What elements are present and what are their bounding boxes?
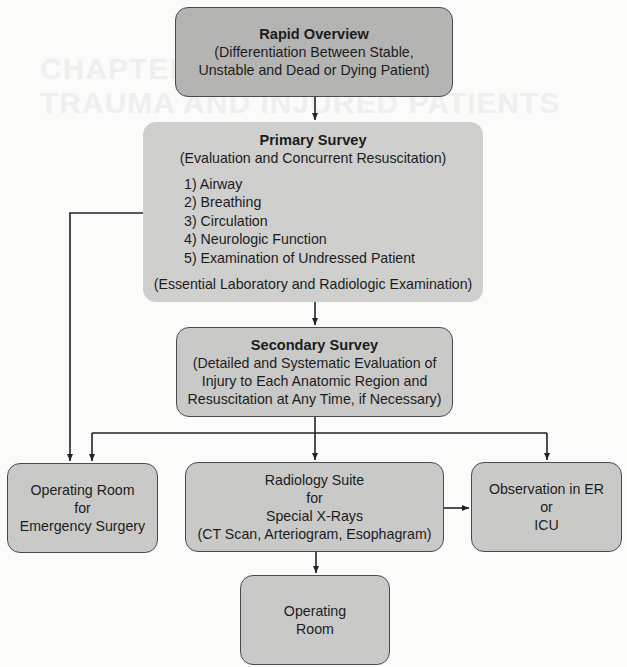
primary-survey-item: 4) Neurologic Function xyxy=(184,230,415,249)
primary-survey-item: 5) Examination of Undressed Patient xyxy=(184,249,415,268)
node-secondary-survey: Secondary Survey (Detailed and Systemati… xyxy=(176,327,453,417)
primary-survey-footer: (Essential Laboratory and Radiologic Exa… xyxy=(154,275,473,293)
radiology-line-4: (CT Scan, Arteriogram, Esophagram) xyxy=(198,525,432,543)
primary-survey-item: 1) Airway xyxy=(184,175,415,194)
rapid-overview-title: Rapid Overview xyxy=(259,25,369,43)
secondary-survey-line-1: (Detailed and Systematic Evaluation of xyxy=(193,354,437,372)
node-primary-survey: Primary Survey (Evaluation and Concurren… xyxy=(143,122,483,302)
primary-survey-title: Primary Survey xyxy=(259,131,366,149)
arrow-primary-to-or-emergency xyxy=(70,213,143,461)
node-operating-room-emergency: Operating Room for Emergency Surgery xyxy=(7,463,158,553)
node-rapid-overview: Rapid Overview (Differentiation Between … xyxy=(175,7,453,97)
observation-line-3: ICU xyxy=(534,516,558,534)
or-emergency-line-3: Emergency Surgery xyxy=(20,517,145,535)
rapid-overview-line-1: (Differentiation Between Stable, xyxy=(214,43,413,61)
operating-room-line-2: Room xyxy=(296,620,334,638)
observation-line-2: or xyxy=(540,498,553,516)
rapid-overview-line-2: Unstable and Dead or Dying Patient) xyxy=(198,61,429,79)
secondary-survey-title: Secondary Survey xyxy=(251,336,378,354)
or-emergency-line-2: for xyxy=(74,499,91,517)
node-radiology-suite: Radiology Suite for Special X-Rays (CT S… xyxy=(185,462,444,552)
primary-survey-list: 1) Airway 2) Breathing 3) Circulation 4)… xyxy=(184,175,415,268)
or-emergency-line-1: Operating Room xyxy=(30,481,134,499)
radiology-line-2: for xyxy=(306,489,323,507)
primary-survey-item: 3) Circulation xyxy=(184,212,415,231)
primary-survey-subtitle: (Evaluation and Concurrent Resuscitation… xyxy=(180,149,447,167)
operating-room-line-1: Operating xyxy=(284,602,346,620)
secondary-survey-line-3: Resuscitation at Any Time, if Necessary) xyxy=(188,390,442,408)
node-operating-room: Operating Room xyxy=(240,575,390,665)
observation-line-1: Observation in ER xyxy=(489,480,604,498)
radiology-line-1: Radiology Suite xyxy=(265,471,364,489)
secondary-survey-line-2: Injury to Each Anatomic Region and xyxy=(202,372,428,390)
node-observation: Observation in ER or ICU xyxy=(471,462,622,552)
radiology-line-3: Special X-Rays xyxy=(266,507,363,525)
primary-survey-item: 2) Breathing xyxy=(184,193,415,212)
